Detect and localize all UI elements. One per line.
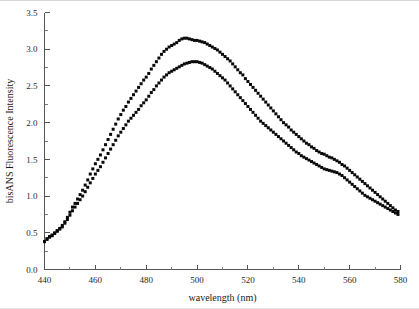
- data-point: [142, 101, 145, 104]
- data-point: [157, 57, 160, 60]
- data-point: [89, 181, 92, 184]
- data-point: [236, 93, 239, 96]
- data-point: [74, 206, 77, 209]
- data-point: [127, 120, 130, 123]
- data-point: [122, 127, 125, 130]
- data-point: [147, 72, 150, 75]
- data-point: [132, 114, 135, 117]
- data-point: [137, 108, 140, 111]
- data-point: [152, 88, 155, 91]
- data-point: [269, 106, 272, 109]
- data-point: [71, 209, 74, 212]
- data-point: [254, 114, 257, 117]
- data-point: [241, 73, 244, 76]
- data-point: [91, 167, 94, 170]
- data-point: [234, 90, 237, 93]
- data-point: [224, 79, 227, 82]
- data-point: [229, 84, 232, 87]
- data-point: [157, 81, 160, 84]
- data-point: [246, 105, 249, 108]
- y-axis-title: bisANS Fluorescence Intensity: [4, 79, 15, 203]
- data-point: [81, 195, 84, 198]
- data-point: [234, 65, 237, 68]
- data-series-0: [43, 37, 399, 243]
- figure-container: 0.00.51.01.52.02.53.03.54404604805005205…: [0, 0, 419, 309]
- data-point: [145, 98, 148, 101]
- data-point: [63, 222, 66, 225]
- data-point: [96, 169, 99, 172]
- data-point: [96, 158, 99, 161]
- data-point: [244, 77, 247, 80]
- data-point: [107, 152, 110, 155]
- data-point: [132, 93, 135, 96]
- data-point: [109, 148, 112, 151]
- data-point: [396, 213, 399, 216]
- data-series-1: [43, 60, 399, 243]
- data-point: [295, 151, 298, 154]
- data-point: [376, 193, 379, 196]
- data-point: [114, 123, 117, 126]
- data-point: [104, 143, 107, 146]
- data-point: [89, 173, 92, 176]
- data-point: [117, 134, 120, 137]
- x-tick-label: 460: [89, 275, 103, 285]
- data-point: [91, 177, 94, 180]
- data-point: [104, 156, 107, 159]
- y-tick-label: 1.5: [26, 155, 38, 165]
- data-point: [323, 153, 326, 156]
- data-point: [239, 96, 242, 99]
- data-point: [140, 82, 143, 85]
- data-point: [150, 68, 153, 71]
- data-point: [330, 156, 333, 159]
- data-point: [119, 113, 122, 116]
- data-point: [259, 95, 262, 98]
- x-tick-label: 540: [292, 275, 306, 285]
- data-point: [287, 144, 290, 147]
- data-point: [99, 165, 102, 168]
- x-tick-label: 560: [343, 275, 357, 285]
- data-point: [84, 190, 87, 193]
- data-point: [287, 126, 290, 129]
- data-point: [109, 133, 112, 136]
- data-point: [295, 133, 298, 136]
- data-point: [246, 80, 249, 83]
- data-point: [117, 117, 120, 120]
- data-point: [274, 112, 277, 115]
- x-tick-label: 480: [139, 275, 153, 285]
- data-point: [107, 138, 110, 141]
- y-tick-label: 0.0: [26, 265, 38, 275]
- data-point: [330, 170, 333, 173]
- data-point: [99, 153, 102, 156]
- data-point: [277, 115, 280, 118]
- data-point: [114, 139, 117, 142]
- data-point: [101, 161, 104, 164]
- data-point: [150, 91, 153, 94]
- data-point: [229, 59, 232, 62]
- data-point: [94, 173, 97, 176]
- data-point: [226, 81, 229, 84]
- x-tick-label: 500: [190, 275, 204, 285]
- data-point: [119, 131, 122, 134]
- data-point: [244, 102, 247, 105]
- y-tick-label: 0.5: [26, 228, 38, 238]
- data-point: [155, 60, 158, 63]
- data-point: [135, 111, 138, 114]
- data-point: [257, 117, 260, 120]
- data-point: [122, 109, 125, 112]
- data-point: [254, 89, 257, 92]
- data-point: [257, 92, 260, 95]
- data-point: [124, 105, 127, 108]
- data-point: [241, 99, 244, 102]
- data-point: [384, 200, 387, 203]
- data-point: [86, 178, 89, 181]
- data-point: [79, 198, 82, 201]
- y-tick-label: 1.0: [26, 191, 38, 201]
- data-point: [236, 68, 239, 71]
- data-point: [127, 101, 130, 104]
- data-point: [252, 86, 255, 89]
- data-point: [231, 62, 234, 65]
- data-point: [94, 162, 97, 165]
- data-point: [101, 148, 104, 151]
- data-point: [129, 97, 132, 100]
- x-tick-label: 580: [394, 275, 408, 285]
